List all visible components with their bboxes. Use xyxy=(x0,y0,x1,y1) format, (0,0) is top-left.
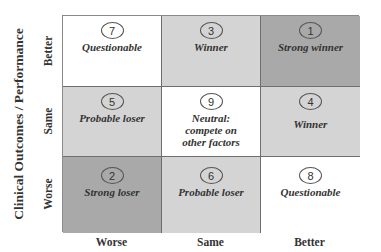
matrix-cell-7: 7 Questionable xyxy=(63,16,162,87)
y-axis-title: Clinical Outcomes / Performance xyxy=(8,15,30,232)
cell-label: Questionable xyxy=(78,41,146,53)
matrix-cell-8: 8 Questionable xyxy=(261,157,360,233)
matrix-cell-2: 2 Strong loser xyxy=(63,157,162,233)
column-label-worse: Worse xyxy=(62,236,161,248)
matrix-cell-4: 4 Winner xyxy=(261,87,360,157)
cell-label-line: compete on xyxy=(181,124,241,136)
cell-label: Probable loser xyxy=(174,186,248,198)
cell-label: Winner xyxy=(190,41,232,53)
cell-label-line: Neutral: xyxy=(188,112,235,124)
y-axis-title-text: Clinical Outcomes / Performance xyxy=(11,28,27,220)
cell-label-line: other factors xyxy=(178,136,244,148)
row-label-text: Better xyxy=(42,35,54,66)
row-label-worse: Worse xyxy=(40,156,56,232)
matrix-cell-6: 6 Probable loser xyxy=(162,157,261,233)
cell-number-badge: 8 xyxy=(299,167,322,184)
cell-number-badge: 9 xyxy=(200,93,223,110)
cell-number-badge: 2 xyxy=(101,167,124,184)
cell-label: Strong loser xyxy=(80,186,143,198)
cell-label: Strong winner xyxy=(274,41,347,53)
cell-number-badge: 5 xyxy=(101,93,124,110)
row-label-text: Worse xyxy=(42,178,54,209)
cell-number-badge: 4 xyxy=(299,93,322,110)
matrix-cell-9: 9 Neutral: compete on other factors xyxy=(162,87,261,157)
column-label-better: Better xyxy=(260,236,359,248)
matrix-cell-5: 5 Probable loser xyxy=(63,87,162,157)
outcome-matrix: 7 Questionable 3 Winner 1 Strong winner … xyxy=(62,15,359,232)
cell-label: Winner xyxy=(290,118,332,130)
matrix-cell-3: 3 Winner xyxy=(162,16,261,87)
cell-number-badge: 3 xyxy=(200,22,223,39)
row-label-same: Same xyxy=(40,86,56,156)
row-label-better: Better xyxy=(40,15,56,86)
cell-label: Probable loser xyxy=(75,112,149,124)
cell-number-badge: 1 xyxy=(299,22,322,39)
cell-label: Questionable xyxy=(277,186,345,198)
cell-number-badge: 7 xyxy=(101,22,124,39)
matrix-cell-1: 1 Strong winner xyxy=(261,16,360,87)
cell-number-badge: 6 xyxy=(200,167,223,184)
column-label-same: Same xyxy=(161,236,260,248)
row-label-text: Same xyxy=(42,108,54,135)
